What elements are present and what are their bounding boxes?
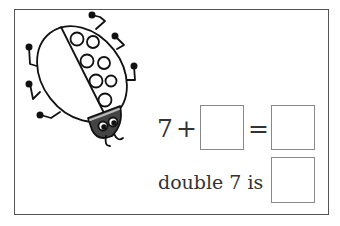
addend-answer-box[interactable] [200,105,244,150]
double-prompt: double 7 is [158,173,263,192]
ladybug-illustration [0,0,170,170]
sum-answer-box[interactable] [271,105,315,150]
double-answer-box[interactable] [271,157,315,203]
equals-sign: = [248,116,269,141]
plus-sign: + [176,116,197,141]
addend-number: 7 [157,116,173,141]
